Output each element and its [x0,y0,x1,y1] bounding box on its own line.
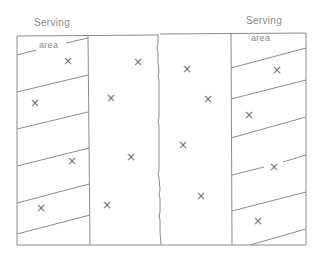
left-area-label: area [39,40,58,50]
left-hatch-2 [17,75,88,92]
right-hatch-6 [250,229,306,245]
point-marker: × [63,55,73,67]
right-area-label: area [251,33,270,43]
frame-top-left [17,35,158,36]
left-hatch-1a [17,50,36,55]
point-marker: × [269,161,279,173]
point-marker: × [203,93,213,105]
right-serving-label: Serving [246,15,282,26]
point-marker: × [178,139,188,151]
right-hatch-4a [232,167,264,175]
frame-top-right [160,33,306,34]
point-marker: × [102,199,112,211]
point-marker: × [67,155,77,167]
point-marker: × [196,190,206,202]
right-hatch-5 [232,192,306,211]
right-hatch-4b [283,155,306,162]
point-marker: × [244,109,254,121]
left-serving-divider [88,35,90,245]
point-marker: × [36,202,46,214]
right-hatch-1 [231,48,306,68]
point-marker: × [182,63,192,75]
point-marker: × [106,92,116,104]
left-hatch-3 [17,112,88,129]
right-hatch-2 [231,80,306,99]
serving-area-diagram: Serving area Serving area × × × × × × × … [0,0,322,261]
point-marker: × [272,64,282,76]
left-hatch-5 [17,184,89,203]
point-marker: × [253,215,263,227]
left-hatch-4 [17,148,89,166]
point-marker: × [30,97,40,109]
left-hatch-1b [66,38,88,43]
point-marker: × [133,56,143,68]
central-boundary-line [157,34,161,245]
right-hatch-3 [231,117,306,138]
point-marker: × [126,151,136,163]
left-hatch-6 [17,215,90,234]
right-serving-divider [231,33,232,245]
left-serving-label: Serving [34,17,70,28]
